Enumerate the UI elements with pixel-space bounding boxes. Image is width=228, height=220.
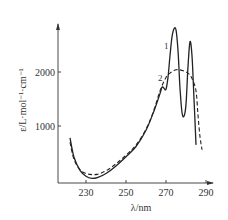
x-tick-label: 270: [159, 187, 174, 198]
y-tick-label: 2000: [35, 67, 55, 78]
curve-1-solid: [70, 28, 196, 179]
x-tick-label: 290: [199, 187, 214, 198]
y-tick-label: 1000: [35, 121, 55, 132]
x-axis-label: λ/nm: [131, 202, 152, 213]
curve-label-1: 1: [164, 41, 169, 51]
x-tick-label: 250: [119, 187, 134, 198]
y-axis-label: ε/L·mol⁻¹·cm⁻¹: [17, 68, 28, 132]
x-tick-label: 230: [79, 187, 94, 198]
curve-2-dashed: [70, 70, 202, 175]
x-axis-arrow-icon: [207, 181, 214, 185]
y-axis-arrow-icon: [56, 23, 60, 30]
chart: 2000 1000 230 250 270 290 λ/nm ε/L·mol⁻¹…: [0, 0, 228, 220]
curve-label-2: 2: [158, 73, 163, 83]
axes: [56, 23, 214, 185]
